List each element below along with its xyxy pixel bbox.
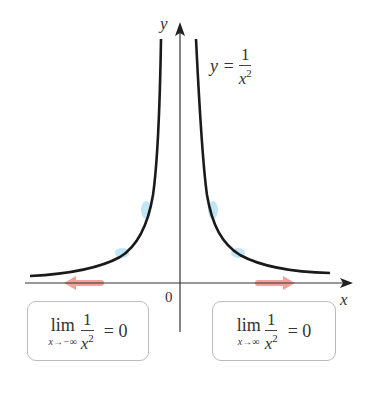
lim-word: lim — [51, 316, 75, 334]
lim-subscript: x→∞ — [238, 337, 260, 347]
function-denominator: x2 — [239, 66, 252, 87]
function-lhs: y = — [210, 56, 235, 77]
function-label: y = 1 x2 — [210, 46, 256, 87]
curve-left-branch — [30, 39, 161, 276]
lim-subscript: x→−∞ — [48, 337, 76, 347]
x-axis-label: x — [340, 290, 348, 310]
function-numerator: 1 — [239, 46, 252, 66]
y-axis-label: y — [160, 14, 168, 34]
limit-box-right: lim x→∞ 1 x2 = 0 — [212, 301, 336, 361]
limit-operator-right: lim x→∞ — [237, 316, 261, 347]
limit-numerator: 1 — [265, 311, 278, 331]
denominator-exponent: 2 — [272, 332, 278, 344]
limit-operator-left: lim x→−∞ — [48, 316, 76, 347]
denominator-exponent: 2 — [246, 67, 252, 79]
denominator-exponent: 2 — [88, 332, 94, 344]
origin-label: 0 — [165, 289, 173, 306]
limit-denominator: x2 — [265, 331, 278, 352]
limit-fraction-right: 1 x2 — [265, 311, 278, 352]
limit-numerator: 1 — [81, 311, 94, 331]
limit-box-left: lim x→−∞ 1 x2 = 0 — [27, 301, 149, 361]
limit-denominator: x2 — [81, 331, 94, 352]
limit-fraction-left: 1 x2 — [81, 311, 94, 352]
function-fraction: 1 x2 — [239, 46, 252, 87]
limit-result: = 0 — [288, 321, 312, 342]
limit-result: = 0 — [104, 321, 128, 342]
lim-word: lim — [237, 316, 261, 334]
